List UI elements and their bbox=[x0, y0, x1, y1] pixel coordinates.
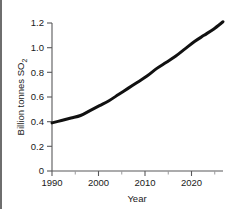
y-axis-title: Billion tonnes SO2 bbox=[15, 59, 28, 136]
svg-text:Billion tonnes SO2: Billion tonnes SO2 bbox=[15, 59, 28, 136]
x-tick-label: 1990 bbox=[41, 177, 62, 188]
x-tick-label: 2000 bbox=[88, 177, 109, 188]
data-series-line bbox=[52, 22, 223, 123]
y-tick-label: 0 bbox=[39, 165, 44, 176]
y-axis-title-subscript: 2 bbox=[21, 59, 28, 63]
x-axis-title: Year bbox=[127, 193, 146, 204]
x-tick-label: 2010 bbox=[134, 177, 155, 188]
x-tick-labels: 1990 2000 2010 2020 bbox=[41, 177, 202, 188]
y-tick-labels: 0 0.2 0.4 0.6 0.8 1.0 1.2 bbox=[31, 17, 44, 176]
y-tick-label: 0.2 bbox=[31, 141, 44, 152]
chart-figure: 0 0.2 0.4 0.6 0.8 1.0 1.2 1990 2000 2010 bbox=[0, 0, 230, 209]
y-tick-label: 1.0 bbox=[31, 42, 44, 53]
y-axis-title-text: Billion tonnes SO bbox=[15, 63, 26, 136]
y-tick-label: 0.8 bbox=[31, 67, 44, 78]
x-tick-label: 2020 bbox=[181, 177, 202, 188]
line-chart: 0 0.2 0.4 0.6 0.8 1.0 1.2 1990 2000 2010 bbox=[0, 0, 230, 209]
y-tick-label: 0.4 bbox=[31, 116, 44, 127]
y-tick-label: 0.6 bbox=[31, 91, 44, 102]
y-axis-ticks bbox=[47, 23, 52, 171]
y-tick-label: 1.2 bbox=[31, 17, 44, 28]
